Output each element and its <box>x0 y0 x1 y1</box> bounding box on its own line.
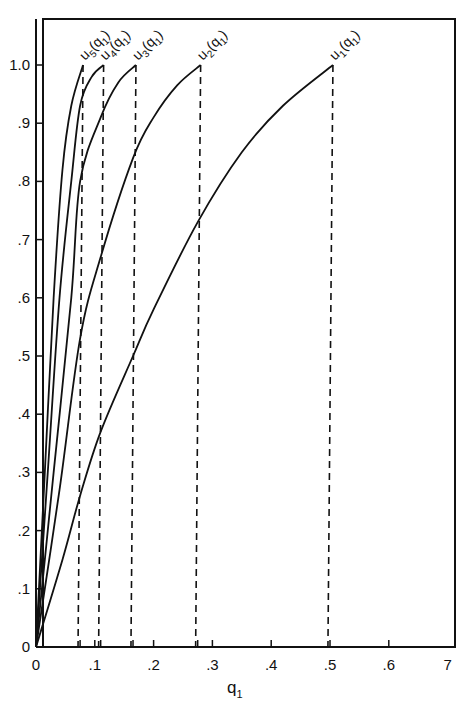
y-tick-label: .7 <box>17 231 30 248</box>
y-tick-label: .1 <box>17 580 30 597</box>
plot-border <box>43 19 455 647</box>
curve-label: u1(q1) <box>326 26 365 65</box>
dashed-drop-line <box>196 65 201 647</box>
x-tick-label: .4 <box>265 656 278 673</box>
chart: 0.1.2.3.4.5.6.7.8.91.00.1.2.3.4.5.67 u1(… <box>0 0 470 712</box>
x-tick-label: .5 <box>324 656 337 673</box>
x-tick-label: .3 <box>206 656 219 673</box>
y-tick-label: 1.0 <box>9 56 30 73</box>
curve-u4q1 <box>36 65 104 647</box>
y-tick-label: .5 <box>17 347 30 364</box>
curve-label: u2(q1) <box>193 26 232 65</box>
plot-frame <box>36 19 455 647</box>
x-tick-label: 7 <box>443 656 451 673</box>
curve-u2q1 <box>36 65 201 647</box>
y-tick-label: 0 <box>22 638 30 655</box>
y-tick-label: .6 <box>17 289 30 306</box>
y-tick-label: .2 <box>17 522 30 539</box>
svg-text:u1(q1): u1(q1) <box>326 26 365 65</box>
curve-labels: u1(q1)u2(q1)u3(q1)u4(q1)u5(q1) <box>76 26 365 65</box>
dashed-drop-line <box>99 65 104 647</box>
x-tick-label: .2 <box>147 656 160 673</box>
dashed-drop-lines <box>78 65 333 647</box>
dashed-drop-line <box>328 65 333 647</box>
x-tick-label: .1 <box>89 656 102 673</box>
dashed-drop-line <box>78 65 83 647</box>
y-tick-label: .4 <box>17 405 30 422</box>
x-tick-label: .6 <box>383 656 396 673</box>
curve-label: u3(q1) <box>129 26 168 65</box>
svg-text:u2(q1): u2(q1) <box>193 26 232 65</box>
y-tick-label: .8 <box>17 172 30 189</box>
x-axis-title: q1 <box>227 678 243 700</box>
y-tick-label: .3 <box>17 463 30 480</box>
svg-text:u3(q1): u3(q1) <box>129 26 168 65</box>
y-tick-label: .9 <box>17 114 30 131</box>
x-tick-label: 0 <box>32 656 40 673</box>
